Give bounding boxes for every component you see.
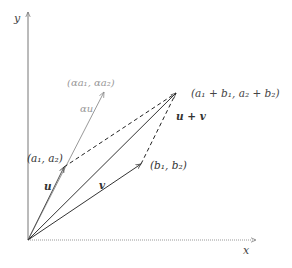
u-vector-label: u (44, 180, 52, 192)
sum-vector-label: u + v (176, 110, 207, 122)
dashed-v-to-sum (141, 93, 176, 164)
vector-diagram: x y (αa₁, αa₂) αu (a₁ + b₁, a₂ + b₂) u +… (0, 0, 292, 268)
y-axis-label: y (13, 12, 21, 25)
v-point-label: (b₁, b₂) (150, 159, 187, 171)
u-vector (28, 167, 64, 240)
alpha-u-point-label: (αa₁, αa₂) (67, 77, 115, 88)
v-vector-label: v (99, 179, 106, 191)
v-vector (28, 164, 141, 240)
u-point-label: (a₁, a₂) (27, 152, 63, 164)
alpha-u-vector-label: αu (80, 103, 93, 114)
x-axis-label: x (243, 244, 250, 257)
sum-point-label: (a₁ + b₁, a₂ + b₂) (191, 87, 280, 99)
